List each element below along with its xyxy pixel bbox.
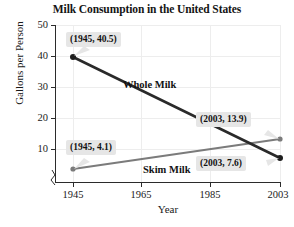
skim-milk-point-2003 [277, 136, 282, 141]
axis-break-icon [51, 170, 55, 185]
milk-consumption-line-chart: Milk Consumption in the United States Ga… [0, 0, 294, 227]
skim-milk-point-1945 [70, 166, 75, 171]
callout-skim-milk-1945: (1945, 4.1) [66, 140, 116, 155]
series-label-skim-milk: Skim Milk [143, 164, 191, 175]
callout-tail-whole-start [74, 46, 90, 56]
callout-whole-milk-1945: (1945, 40.5) [66, 32, 121, 47]
callout-skim-milk-2003: (2003, 13.9) [196, 112, 251, 127]
callout-whole-milk-2003: (2003, 7.6) [196, 156, 246, 171]
whole-milk-point-2003 [277, 155, 283, 161]
callout-tail-skim-end [264, 130, 279, 139]
callout-tail-whole-end [266, 158, 279, 166]
series-label-whole-milk: Whole Milk [123, 79, 176, 90]
